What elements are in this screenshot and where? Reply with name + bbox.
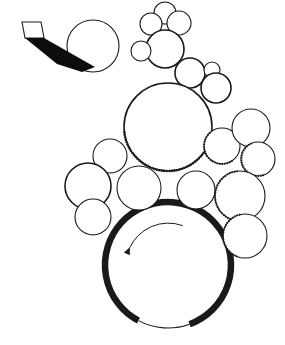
grain-grain-15	[177, 171, 215, 209]
grain-grain-10	[124, 83, 212, 171]
grain-grain-14	[117, 166, 161, 210]
grain-grain-07	[175, 58, 205, 88]
grain-grain-05	[146, 30, 184, 68]
grain-outline	[146, 30, 184, 68]
grain-outline	[131, 41, 151, 61]
grain-outline	[223, 214, 267, 258]
grain-outline	[117, 166, 161, 210]
grain-outline	[175, 58, 205, 88]
grain-grain-06	[131, 41, 151, 61]
grain-grain-17	[232, 109, 270, 147]
grain-grain-19	[215, 171, 265, 221]
grain-grain-20	[223, 214, 267, 258]
grain-outline	[177, 171, 215, 209]
figure-canvas	[0, 0, 285, 345]
grain-outline	[232, 109, 270, 147]
grain-grain-09	[201, 73, 231, 103]
grain-outline	[75, 199, 111, 235]
grain-grain-13	[75, 199, 111, 235]
grain-outline	[201, 73, 231, 103]
granular-packing-figure: Granular packing with rotating drum and …	[0, 0, 285, 345]
grain-grain-18	[241, 142, 275, 176]
